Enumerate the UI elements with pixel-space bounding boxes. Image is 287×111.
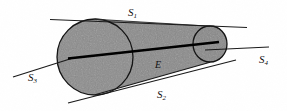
label-s1: S1 [128, 3, 137, 20]
label-s1-sub: 1 [134, 12, 138, 20]
label-s2-sub: 2 [163, 94, 167, 102]
label-s3-sub: 3 [34, 77, 38, 85]
label-s2: S2 [157, 85, 166, 102]
label-s4: S4 [259, 50, 268, 67]
label-s3: S3 [28, 68, 37, 85]
label-s4-sub: 4 [265, 59, 269, 67]
figure-canvas: S1 S2 S3 S4 E [0, 0, 287, 111]
cone-diagram-svg [0, 0, 287, 111]
label-axis-e: E [155, 55, 161, 71]
label-axis-e-base: E [155, 59, 161, 70]
